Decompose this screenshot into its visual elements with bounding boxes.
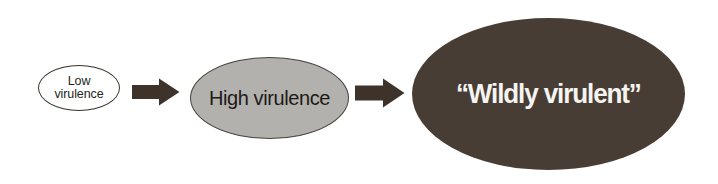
stage-low-virulence: Low virulence <box>38 65 120 111</box>
stage-high-virulence-label: High virulence <box>209 87 330 109</box>
stage-wildly-virulent: “Wildly virulent” <box>412 18 685 170</box>
stage-high-virulence: High virulence <box>190 57 349 139</box>
stage-low-virulence-label: Low virulence <box>54 75 103 102</box>
right-arrow-icon-1 <box>132 78 180 106</box>
diagram-canvas: Low virulence High virulence “Wildly vir… <box>0 0 718 184</box>
stage-wildly-virulent-label: “Wildly virulent” <box>456 79 641 109</box>
right-arrow-icon-2 <box>355 78 405 108</box>
